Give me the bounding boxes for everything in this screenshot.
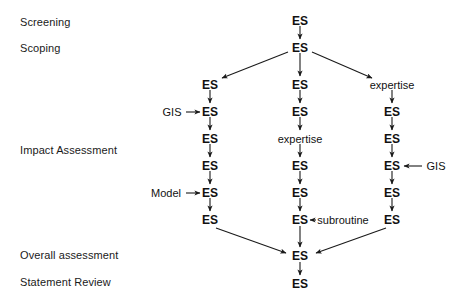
node-right-expertise: expertise <box>370 79 415 91</box>
node-bottom-es-1: ES <box>292 249 308 263</box>
node-left-es-6: ES <box>202 213 218 227</box>
label-gis-left: GIS <box>163 106 182 118</box>
node-right-es-5: ES <box>384 213 400 227</box>
node-mid-es-4: ES <box>292 186 308 200</box>
node-left-es-1: ES <box>202 78 218 92</box>
node-left-es-2: ES <box>202 105 218 119</box>
diagram-page: ES ES ES ES ES ES ES ES ES ES expertise … <box>0 0 458 304</box>
node-top-es-2: ES <box>292 41 308 55</box>
edge-right-es5-to-bottom-es1 <box>316 228 386 253</box>
node-mid-es-3: ES <box>292 159 308 173</box>
label-model-left: Model <box>151 187 181 199</box>
node-mid-es-5: ES <box>292 213 308 227</box>
node-mid-expertise: expertise <box>278 133 323 145</box>
node-left-es-5: ES <box>202 186 218 200</box>
label-subroutine: subroutine <box>317 214 368 226</box>
vertical-edges-group <box>210 26 392 275</box>
node-left-es-4: ES <box>202 159 218 173</box>
stage-label-overall-assessment: Overall assessment <box>20 249 118 261</box>
node-right-es-1: ES <box>384 105 400 119</box>
node-right-es-2: ES <box>384 132 400 146</box>
node-mid-es-1: ES <box>292 78 308 92</box>
node-top-es-1: ES <box>292 14 308 28</box>
stage-label-impact-assessment: Impact Assessment <box>20 144 117 156</box>
stage-label-statement-review: Statement Review <box>20 276 111 288</box>
stage-label-screening: Screening <box>20 16 70 28</box>
stage-label-scoping: Scoping <box>20 42 60 54</box>
edge-top-es2-to-left-es1 <box>222 52 288 78</box>
node-right-es-3: ES <box>384 159 400 173</box>
node-bottom-es-2: ES <box>292 277 308 291</box>
node-mid-es-2: ES <box>292 105 308 119</box>
edge-top-es2-to-right-expertise <box>312 52 372 78</box>
node-labels-group: ES ES ES ES ES ES ES ES ES ES expertise … <box>202 14 414 291</box>
label-gis-right: GIS <box>427 160 446 172</box>
node-right-es-4: ES <box>384 186 400 200</box>
node-left-es-3: ES <box>202 132 218 146</box>
edge-left-es6-to-bottom-es1 <box>216 228 286 253</box>
